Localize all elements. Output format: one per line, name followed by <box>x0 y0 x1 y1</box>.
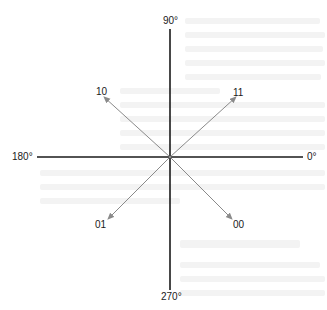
point-label-00: 00 <box>233 220 244 230</box>
arrow-01 <box>108 157 170 219</box>
point-label-10: 10 <box>96 87 107 97</box>
arrow-11 <box>170 97 236 157</box>
constellation-diagram: 90° 0° 270° 180° 10 11 01 00 <box>0 0 327 310</box>
arrow-00 <box>170 157 232 219</box>
diagram-canvas <box>0 0 327 310</box>
axis-label-left: 180° <box>12 152 33 162</box>
axis-label-bottom: 270° <box>161 292 182 302</box>
point-label-11: 11 <box>233 88 243 98</box>
axis-label-top: 90° <box>163 16 178 26</box>
arrow-10 <box>104 97 170 157</box>
axis-label-right: 0° <box>307 152 317 162</box>
point-label-01: 01 <box>95 220 106 230</box>
